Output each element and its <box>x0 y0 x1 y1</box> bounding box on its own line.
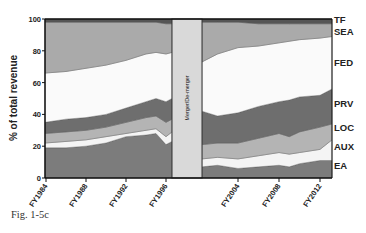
series-label-ea: EA <box>334 160 347 171</box>
series-label-prv: PRV <box>334 98 354 109</box>
y-tick-label: 100 <box>28 15 41 24</box>
y-tick-label: 80 <box>33 47 41 56</box>
x-tick-label: FY1992 <box>107 182 129 209</box>
series-label-sea: SEA <box>334 26 354 37</box>
areas-post-merger <box>202 19 332 178</box>
x-tick-label: FY1996 <box>147 182 169 209</box>
series-label-tf: TF <box>334 14 346 25</box>
series-label-fed: FED <box>334 57 353 68</box>
series-label-loc: LOC <box>334 122 354 133</box>
y-tick-label: 40 <box>33 110 41 119</box>
y-axis-title: % of total revenue <box>8 55 19 142</box>
x-tick-label: FY2012 <box>301 182 323 209</box>
x-tick-label: FY1988 <box>67 182 89 209</box>
figure-caption: Fig. 1-5c <box>11 209 49 220</box>
x-tick-label: FY2004 <box>219 181 242 208</box>
y-ticks: 020406080100 <box>28 15 45 183</box>
merger-label: Merger/De-merger <box>184 75 190 120</box>
y-tick-label: 20 <box>33 142 41 151</box>
stacked-area-chart: Merger/De-merger 020406080100 FY1984FY19… <box>0 0 366 233</box>
series-labels: TFSEAFEDPRVLOCAUXEA <box>334 14 355 171</box>
series-label-aux: AUX <box>334 141 355 152</box>
x-tick-label: FY1984 <box>27 181 50 208</box>
y-tick-label: 60 <box>33 79 41 88</box>
y-tick-label: 0 <box>37 174 41 183</box>
x-ticks: FY1984FY1988FY1992FY1996FY2004FY2008FY20… <box>27 178 323 209</box>
areas-pre-merger <box>45 19 172 178</box>
x-tick-label: FY2008 <box>260 182 282 209</box>
